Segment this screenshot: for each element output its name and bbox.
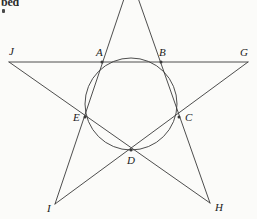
vertex-dot-e (84, 116, 87, 119)
chord-G-I (55, 62, 248, 204)
inscribed-circle (85, 58, 177, 150)
vertex-dot-c (178, 116, 181, 119)
inner-vertex-label-c: C (185, 112, 192, 123)
geometry-figure: bed GHIJABCDE (0, 0, 257, 219)
outer-vertex-label-h: H (215, 202, 223, 213)
outer-vertex-label-i: I (47, 203, 51, 214)
chord-F-H (131, 0, 210, 203)
vertex-dot-d (130, 149, 133, 152)
chord-J-H (9, 62, 210, 203)
circle-group (85, 58, 177, 150)
pentagram-svg-canvas (0, 0, 257, 219)
vertex-dot-a (101, 61, 104, 64)
outer-vertex-label-j: J (9, 46, 14, 57)
inner-vertex-label-e: E (73, 112, 80, 123)
inner-vertex-label-d: D (127, 155, 135, 166)
vertex-dot-b (160, 61, 163, 64)
star-line-group (9, 0, 248, 204)
outer-vertex-label-g: G (240, 47, 248, 58)
inner-vertex-label-b: B (159, 47, 166, 58)
inner-vertex-label-a: A (96, 47, 103, 58)
